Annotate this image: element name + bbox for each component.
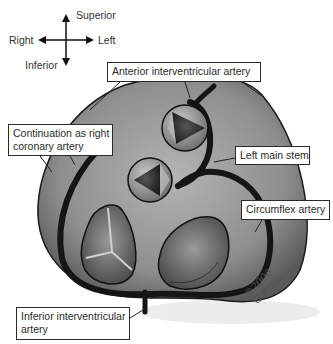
label-anterior-interventricular-artery: Anterior interventricular artery <box>107 62 261 82</box>
orientation-inferior: Inferior <box>25 59 58 71</box>
label-circumflex-artery: Circumflex artery <box>241 200 330 220</box>
heart-diagram: ©2000 G.Price <box>0 0 333 344</box>
orientation-superior: Superior <box>76 9 116 21</box>
label-continuation-right-coronary: Continuation as right coronary artery <box>8 124 113 156</box>
aortic-valve <box>128 158 172 202</box>
pulmonary-valve <box>162 105 208 151</box>
label-left-main-stem: Left main stem <box>235 146 310 165</box>
drop-shadow <box>140 300 320 324</box>
orientation-right: Right <box>9 34 34 46</box>
orientation-left: Left <box>98 34 116 46</box>
label-inferior-interventricular-artery: Inferior interventricular artery <box>16 307 130 340</box>
